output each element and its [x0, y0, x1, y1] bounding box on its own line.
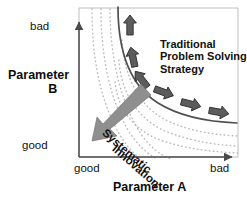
x-axis-tick-good: good	[74, 162, 100, 175]
traditional-right-arrow-2	[180, 96, 203, 113]
traditional-callout-line1: Traditional	[160, 38, 247, 50]
tradeoff-curve-figure: bad good good bad Parameter B Parameter …	[0, 0, 247, 200]
y-axis-title: Parameter B	[8, 68, 69, 96]
y-axis-tick-good: good	[22, 139, 48, 152]
traditional-right-arrow-3	[208, 104, 230, 120]
x-axis-tick-bad: bad	[210, 162, 229, 175]
traditional-right-arrow-1	[152, 83, 175, 102]
traditional-up-arrow-1	[124, 15, 137, 35]
y-axis-title-line2: B	[8, 82, 69, 96]
traditional-callout-line3: Strategy	[160, 63, 247, 75]
traditional-callout-line2: Problem Solving	[160, 50, 247, 62]
y-axis-title-line1: Parameter	[8, 68, 69, 82]
traditional-arrows-right	[152, 83, 230, 120]
traditional-strategy-callout: Traditional Problem Solving Strategy	[160, 38, 247, 75]
y-axis-tick-bad: bad	[30, 20, 49, 33]
traditional-arrows-up	[124, 15, 153, 91]
